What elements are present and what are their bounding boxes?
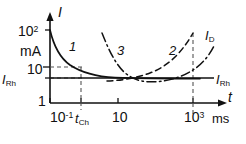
y-tick-label-1: 1 (38, 94, 46, 108)
x-tick-label-0-1: 10-1 (50, 110, 73, 124)
current-vs-time-chart: I t 102 mA 10 IRh 1 10-1 tCh 10 103 ms 1… (0, 0, 246, 144)
x-tick-label-1000-base: 10 (184, 109, 200, 125)
y-tick-label-irh: IRh (2, 73, 16, 88)
y-tick-label-100-exponent: 2 (34, 24, 39, 34)
x-axis-arrowhead (218, 99, 227, 106)
curve-2-label: 2 (169, 44, 176, 57)
y-tick-label-100-base: 10 (18, 23, 34, 39)
id-current-label-subscript: D (209, 35, 215, 44)
x-tick-label-0-1-base: 10 (50, 109, 66, 125)
irh-right-label: IRh (216, 73, 230, 88)
x-axis-unit-label: ms (212, 112, 229, 125)
y-axis-ticks (43, 30, 50, 78)
x-tick-label-0-1-exponent: -1 (66, 110, 74, 120)
axes (46, 12, 227, 107)
x-tick-label-1000-exponent: 3 (200, 110, 205, 120)
curve-1-label: 1 (69, 40, 76, 53)
x-tick-label-10: 10 (112, 110, 128, 124)
x-tick-label-tch-subscript: Ch (79, 118, 89, 127)
y-axis-arrowhead (46, 12, 53, 21)
y-tick-label-100: 102 (18, 24, 38, 38)
x-tick-label-1000: 103 (184, 110, 204, 124)
curve-3-label: 3 (117, 44, 124, 57)
y-axis-unit-label: mA (20, 44, 41, 58)
y-tick-label-irh-subscript: Rh (6, 79, 16, 88)
id-current-label: ID (205, 29, 214, 44)
x-tick-label-tch: tCh (75, 112, 89, 127)
y-axis-title: I (58, 5, 62, 19)
x-axis-title: t (228, 90, 232, 104)
y-tick-label-10: 10 (27, 62, 43, 76)
irh-right-label-subscript: Rh (220, 79, 230, 88)
curve-1-path (50, 30, 200, 79)
